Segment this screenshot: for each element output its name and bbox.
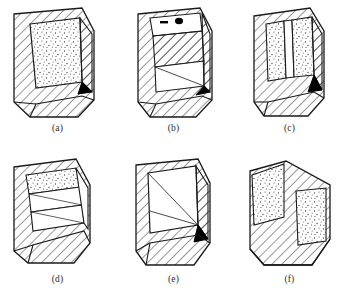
panel-c-caption: (c) (232, 123, 347, 133)
panel-e-caption: (e) (116, 274, 231, 284)
stippled-left-panel-f (252, 164, 284, 225)
stippled-face-a (30, 18, 82, 88)
panel-e: (e) (116, 155, 231, 303)
panel-a-caption: (a) (0, 123, 115, 133)
figure-container: (a) (0, 0, 347, 303)
panel-f-artwork (232, 155, 347, 277)
panel-b-caption: (b) (116, 123, 231, 133)
panel-b-artwork (116, 4, 231, 126)
panel-d: (d) (0, 155, 115, 303)
panel-d-caption: (d) (0, 274, 115, 284)
panel-c: (c) (232, 4, 347, 152)
black-bar-b (160, 21, 168, 23)
panel-b: (b) (116, 4, 231, 152)
stippled-right-column-c (292, 17, 314, 77)
panel-a-artwork (0, 4, 115, 126)
panel-c-artwork (232, 4, 347, 126)
panel-a: (a) (0, 4, 115, 152)
stippled-right-panel-f (296, 188, 326, 245)
panel-d-artwork (0, 155, 115, 277)
stippled-left-column-c (266, 21, 286, 81)
panel-f-caption: (f) (232, 274, 347, 284)
panel-f: (f) (232, 155, 347, 303)
black-dot-b (175, 18, 183, 24)
panel-e-artwork (116, 155, 231, 277)
